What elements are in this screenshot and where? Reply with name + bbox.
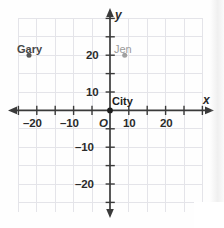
- coordinate-plane-figure: –20 –10 10 20 20 10 –10 –20 O x y Gary J…: [0, 0, 224, 228]
- coordinate-plane-svg: [0, 0, 224, 228]
- y-axis-label: y: [115, 9, 122, 21]
- x-tick-label-10: 10: [123, 118, 135, 130]
- point-label-city: City: [112, 96, 133, 107]
- point-label-gary: Gary: [17, 44, 42, 55]
- x-axis-arrow-right: [205, 107, 214, 115]
- y-tick-label--10: –10: [75, 142, 94, 154]
- point-label-jen: Jen: [114, 44, 132, 55]
- x-axis-arrow-left: [8, 107, 17, 115]
- y-tick-label-10: 10: [86, 87, 98, 99]
- data-point-city[interactable]: [107, 108, 113, 114]
- x-axis-label: x: [203, 94, 210, 106]
- x-tick-label--10: –10: [60, 118, 79, 130]
- origin-label: O: [99, 118, 108, 130]
- x-tick-label-20: 20: [160, 118, 172, 130]
- y-tick-label--20: –20: [75, 179, 94, 191]
- y-axis-arrow-down: [106, 209, 114, 218]
- y-tick-label-20: 20: [86, 50, 98, 62]
- y-axis-arrow-up: [106, 8, 114, 17]
- x-tick-label--20: –20: [23, 118, 42, 130]
